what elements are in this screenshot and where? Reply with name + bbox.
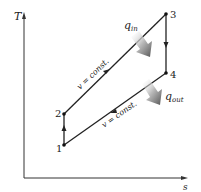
cycle — [64, 14, 166, 145]
process-4-1-label: v = const. — [100, 99, 138, 130]
t-axis-label: T — [14, 10, 23, 23]
s-axis-arrow-icon — [181, 176, 188, 180]
s-axis-label: s — [183, 182, 188, 192]
state-2-point — [62, 112, 66, 116]
arrow-up-icon — [62, 125, 67, 131]
state-4-point — [164, 71, 168, 75]
axes: T s — [14, 10, 188, 192]
arrow-down-icon — [164, 42, 169, 48]
state-3-point — [164, 12, 168, 16]
arrow-right-icon — [103, 69, 110, 74]
state-4-label: 4 — [170, 69, 176, 80]
state-2-label: 2 — [55, 108, 61, 119]
state-3-label: 3 — [170, 9, 176, 20]
q-in-arrow-icon — [131, 31, 152, 57]
ts-diagram: T s 1 2 3 4 v = const. v = const. qin qo… — [0, 0, 201, 192]
q-out-label: qout — [165, 90, 184, 104]
t-axis-arrow-icon — [22, 12, 26, 19]
q-in-label: qin — [124, 19, 138, 33]
state-1-point — [62, 143, 66, 147]
state-1-label: 1 — [56, 143, 62, 154]
